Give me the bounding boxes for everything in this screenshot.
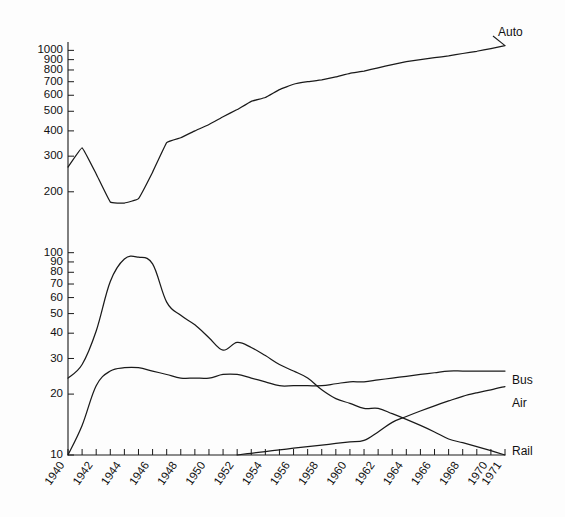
y-tick-label: 200	[44, 185, 63, 197]
series-line-auto	[68, 46, 505, 203]
x-tick-label: 1950	[183, 459, 208, 487]
x-tick-label: 1956	[268, 459, 293, 487]
transportation-modes-chart: 1020304050607080901002003004005006007008…	[0, 0, 565, 517]
y-tick-label: 700	[44, 75, 63, 87]
x-tick-label: 1964	[380, 459, 405, 487]
y-tick-label: 50	[50, 307, 63, 319]
x-tick-label: 1944	[99, 459, 124, 487]
series-label-auto: Auto	[498, 25, 523, 39]
series-lines	[68, 46, 505, 455]
x-tick-label: 1968	[437, 459, 462, 487]
x-tick-label: 1960	[324, 459, 349, 487]
x-tick-label: 1942	[70, 459, 95, 487]
y-tick-label: 20	[50, 387, 63, 399]
y-tick-label: 10	[50, 448, 63, 460]
y-tick-label: 400	[44, 124, 63, 136]
series-label-air: Air	[512, 396, 527, 410]
series-label-bus: Bus	[512, 373, 533, 387]
y-tick-label: 30	[50, 352, 63, 364]
y-tick-label: 300	[44, 149, 63, 161]
series-line-bus	[68, 367, 505, 455]
y-tick-label: 100	[44, 246, 63, 258]
y-tick-label: 80	[50, 265, 63, 277]
x-tick-label: 1958	[296, 459, 321, 487]
axis-lines	[68, 42, 505, 455]
y-tick-label: 70	[50, 277, 63, 289]
series-labels: AutoRailBusAir	[493, 25, 533, 458]
y-tick-label: 500	[44, 104, 63, 116]
x-tick-label: 1946	[127, 459, 152, 487]
x-tick-label: 1966	[409, 459, 434, 487]
y-tick-label: 1000	[37, 43, 63, 55]
x-tick-label: 1948	[155, 459, 180, 487]
chart-canvas: 1020304050607080901002003004005006007008…	[0, 0, 565, 517]
y-tick-label: 600	[44, 88, 63, 100]
y-tick-label: 60	[50, 291, 63, 303]
x-tick-label: 1940	[42, 459, 67, 487]
series-line-air	[237, 387, 505, 455]
x-tick-label: 1954	[239, 459, 264, 487]
series-line-rail	[68, 256, 505, 455]
series-label-rail: Rail	[512, 444, 533, 458]
y-tick-label: 800	[44, 63, 63, 75]
x-tick-label: 1962	[352, 459, 377, 487]
x-tick-label: 1952	[211, 459, 236, 487]
y-tick-label: 40	[50, 326, 63, 338]
